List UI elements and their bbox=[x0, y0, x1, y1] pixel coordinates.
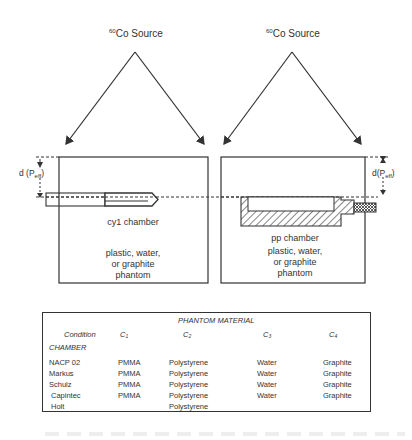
right-depth-text: d(P bbox=[372, 168, 385, 178]
left-phantom-line-3: phantom bbox=[96, 270, 170, 281]
right-chamber-label: pp chamber bbox=[262, 233, 328, 244]
table-row-c4: Graphite bbox=[323, 391, 352, 400]
left-phantom-line-1: plastic, water, bbox=[96, 248, 170, 259]
column-header-c4: C4 bbox=[329, 330, 337, 339]
table-row-chamber: Markus bbox=[49, 369, 74, 378]
right-depth-label: d(Peff) bbox=[372, 168, 395, 182]
table-row-c1: PMMA bbox=[118, 391, 141, 400]
left-phantom-line-2: or graphite bbox=[96, 259, 170, 270]
table-row-c1: PMMA bbox=[118, 369, 141, 378]
table-row-chamber: Holt bbox=[51, 402, 64, 411]
column-header-c1: C1 bbox=[120, 330, 128, 339]
phantom-material-table: PHANTOM MATERIAL Condition C1 C2 C3 C4 C… bbox=[42, 312, 371, 412]
left-phantom-label: plastic, water, or graphite phantom bbox=[96, 248, 170, 281]
left-depth-text: d (P bbox=[19, 168, 35, 178]
cylindrical-chamber bbox=[46, 193, 158, 206]
table-row-c4: Graphite bbox=[323, 380, 352, 389]
table-row-c2: Polystyrene bbox=[169, 369, 208, 378]
right-phantom-label: plastic, water, or graphite phantom bbox=[258, 246, 332, 279]
column-header-c2: C2 bbox=[183, 330, 191, 339]
table-row-c1: PMMA bbox=[118, 358, 141, 367]
right-source-label: 60Co Source bbox=[266, 26, 320, 39]
left-depth-close: ) bbox=[41, 168, 44, 178]
table-row-c3: Water bbox=[257, 358, 277, 367]
right-beam-arrows bbox=[224, 52, 361, 144]
table-row-c4: Graphite bbox=[323, 358, 352, 367]
left-chamber-label: cy1 chamber bbox=[100, 217, 166, 228]
table-row-c3: Water bbox=[257, 391, 277, 400]
left-depth-label: d (Peff) bbox=[19, 168, 44, 182]
right-phantom-line-1: plastic, water, bbox=[258, 246, 332, 257]
right-phantom-line-2: or graphite bbox=[258, 257, 332, 268]
right-depth-close: ) bbox=[392, 168, 395, 178]
table-row-chamber: Capintec bbox=[51, 391, 81, 400]
table-row-chamber: Schulz bbox=[49, 380, 72, 389]
parallel-plate-chamber bbox=[221, 197, 376, 226]
cut-off-caption-fragment bbox=[45, 432, 405, 436]
left-isotope-mass: 60 bbox=[109, 28, 116, 34]
right-source-text: Co Source bbox=[273, 28, 320, 39]
table-row-c2: Polystyrene bbox=[169, 391, 208, 400]
table-row-chamber: NACP 02 bbox=[49, 358, 80, 367]
table-row-c4: Graphite bbox=[323, 369, 352, 378]
left-source-label: 60Co Source bbox=[109, 26, 163, 39]
right-phantom-line-3: phantom bbox=[258, 268, 332, 279]
table-row-c2: Polystyrene bbox=[169, 358, 208, 367]
right-isotope-mass: 60 bbox=[266, 28, 273, 34]
condition-header: Condition bbox=[64, 330, 96, 339]
table-row-c3: Water bbox=[257, 369, 277, 378]
table-row-c2: Polystyrene bbox=[169, 380, 208, 389]
table-row-c2: Polystyrene bbox=[169, 402, 208, 411]
left-beam-arrows bbox=[66, 52, 204, 144]
left-source-text: Co Source bbox=[116, 28, 163, 39]
column-header-c3: C3 bbox=[263, 330, 271, 339]
chamber-group-label: CHAMBER bbox=[49, 343, 87, 352]
table-title: PHANTOM MATERIAL bbox=[178, 316, 254, 325]
table-row-c1: PMMA bbox=[118, 380, 141, 389]
table-row-c3: Water bbox=[257, 380, 277, 389]
